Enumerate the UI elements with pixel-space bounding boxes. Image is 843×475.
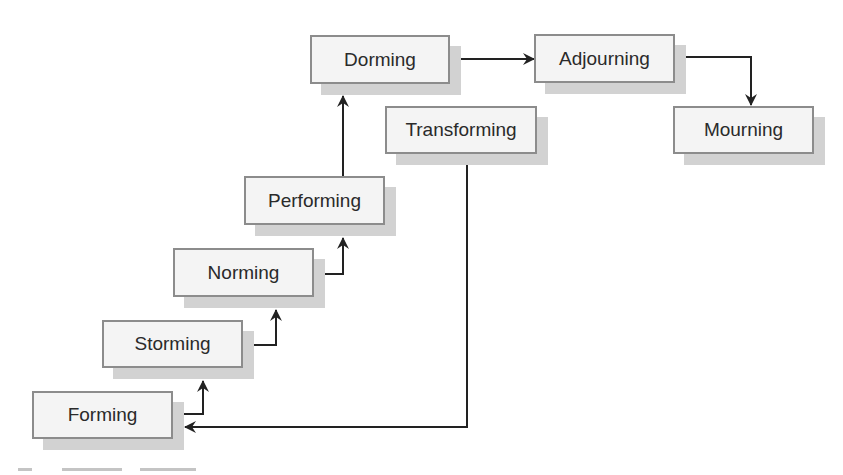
arrow-adjourning-to-mourning <box>686 57 751 105</box>
arrow-storming-to-norming <box>254 310 276 345</box>
node-adjourning: Adjourning <box>534 34 675 83</box>
figure-caption-cropped <box>0 468 843 475</box>
arrow-forming-to-storming <box>184 381 203 414</box>
group-stages-diagram: Forming Storming Norming Performing Dorm… <box>0 0 843 475</box>
node-norming: Norming <box>173 248 314 297</box>
node-forming: Forming <box>32 391 173 439</box>
arrow-norming-to-performing <box>325 238 343 274</box>
node-dorming: Dorming <box>310 35 450 84</box>
node-transforming: Transforming <box>385 106 537 154</box>
node-storming: Storming <box>102 320 243 368</box>
node-performing: Performing <box>244 176 385 225</box>
node-mourning: Mourning <box>673 106 814 154</box>
